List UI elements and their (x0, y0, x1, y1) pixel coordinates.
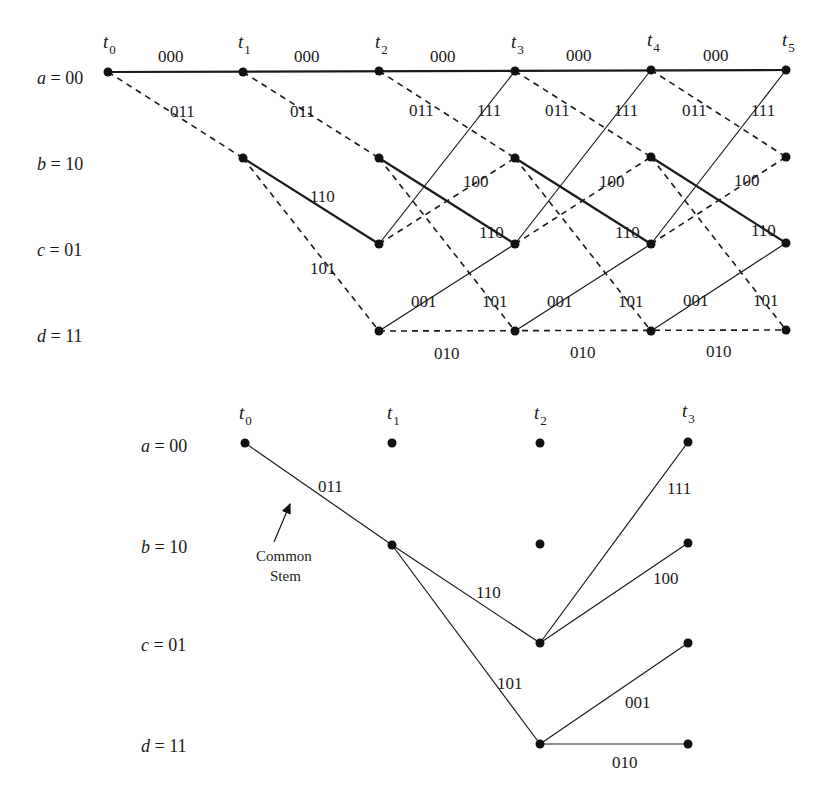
node-c-t3 (684, 639, 693, 648)
branch-label-ab: 011 (290, 102, 315, 121)
time-label-t3: t3 (511, 31, 524, 57)
node-b-t3 (511, 154, 520, 163)
branch-label-ab: 011 (682, 101, 707, 120)
node-d-t2 (536, 740, 545, 749)
branch-label-bd: 101 (482, 292, 508, 311)
arrow-icon (274, 504, 290, 542)
node-b-t2 (536, 540, 545, 549)
node-c-t4 (647, 240, 656, 249)
branch-label-dd: 010 (570, 343, 596, 362)
branch-label-dc: 001 (683, 291, 709, 310)
branch-label-dc: 001 (411, 292, 437, 311)
edge-b-to-d (392, 545, 540, 744)
survivor-time-label-t3: t3 (682, 400, 695, 426)
survivor-edges (245, 442, 688, 744)
edges-a-to-a (108, 70, 786, 72)
common-stem-annotation: Common Stem (256, 504, 312, 584)
node-d-t3 (684, 740, 693, 749)
branch-label-bc: 110 (479, 223, 504, 242)
branch-label-ab: 011 (545, 101, 570, 120)
branch-label-aa: 000 (430, 47, 456, 66)
branch-label-dd: 010 (434, 344, 460, 363)
edges-d-to-c (379, 243, 786, 331)
branch-label-aa: 000 (158, 47, 184, 66)
node-a-t3 (684, 438, 693, 447)
branch-label-ca: 111 (667, 479, 691, 498)
branch-label-cb: 100 (653, 569, 679, 588)
branch-label-bd: 101 (618, 292, 644, 311)
annotation-common: Common (256, 548, 312, 564)
node-a-t5 (782, 66, 791, 75)
branch-label-ca: 111 (751, 101, 775, 120)
branch-label-ab: 011 (409, 101, 434, 120)
state-label-c: c = 01 (37, 240, 82, 260)
node-d-t2 (375, 327, 384, 336)
node-c-t3 (511, 240, 520, 249)
survivor-time-label-t2: t2 (534, 402, 547, 428)
survivor-state-label-b: b = 10 (141, 537, 187, 557)
node-d-t3 (511, 327, 520, 336)
survivor-time-label-t1: t1 (387, 402, 400, 428)
branch-label-ca: 111 (614, 101, 638, 120)
branch-label-bc: 110 (476, 583, 501, 602)
trellis-diagram: t0 t1 t2 t3 t4 t5 a = 00 b = 10 c = 01 d… (37, 29, 795, 363)
branch-label-bc: 110 (615, 223, 640, 242)
node-b-t2 (375, 154, 384, 163)
edges-c-to-a (379, 70, 786, 244)
branch-label-stem: 011 (318, 477, 343, 496)
node-a-t0 (241, 439, 250, 448)
branch-label-dc: 001 (625, 693, 651, 712)
survivor-state-label-a: a = 00 (141, 436, 187, 456)
time-label-t1: t1 (238, 31, 251, 57)
time-label-t4: t4 (647, 29, 660, 55)
node-c-t2 (536, 639, 545, 648)
branch-label-ca: 111 (477, 101, 501, 120)
branch-label-bd: 101 (497, 674, 523, 693)
node-a-t2 (375, 67, 384, 76)
survivor-time-labels: t0 t1 t2 t3 (239, 400, 695, 428)
node-d-t5 (782, 326, 791, 335)
edge-c-to-a (540, 442, 688, 643)
branch-label-aa: 000 (703, 46, 729, 65)
branch-label-cb: 100 (599, 172, 625, 191)
time-label-t2: t2 (375, 31, 388, 57)
survivor-branch-labels: 011 110 101 111 100 001 010 (318, 477, 691, 772)
branch-labels: 000 000 000 000 000 011 011 011 011 011 … (158, 46, 779, 363)
time-label-t0: t0 (103, 31, 116, 57)
node-a-t4 (647, 66, 656, 75)
trellis-figure: t0 t1 t2 t3 t4 t5 a = 00 b = 10 c = 01 d… (0, 0, 827, 803)
branch-label-aa: 000 (566, 46, 592, 65)
state-labels: a = 00 b = 10 c = 01 d = 11 (37, 68, 83, 346)
branch-label-dd: 010 (612, 753, 638, 772)
branch-label-bd: 101 (753, 291, 779, 310)
branch-label-cb: 100 (463, 172, 489, 191)
node-b-t3 (684, 539, 693, 548)
node-b-t5 (782, 153, 791, 162)
survivor-time-label-t0: t0 (239, 402, 252, 428)
branch-label-bc: 110 (310, 187, 335, 206)
edge-b-to-c (392, 545, 540, 643)
node-a-t0 (104, 68, 113, 77)
node-a-t3 (511, 67, 520, 76)
node-c-t5 (782, 239, 791, 248)
edge-c-to-b (540, 543, 688, 643)
node-a-t2 (536, 439, 545, 448)
branch-label-bd: 101 (310, 259, 336, 278)
node-c-t2 (375, 240, 384, 249)
state-label-a: a = 00 (37, 68, 83, 88)
annotation-stem: Stem (270, 568, 301, 584)
node-b-t1 (388, 541, 397, 550)
branch-label-dd: 010 (706, 342, 732, 361)
survivor-state-label-d: d = 11 (141, 736, 186, 756)
branch-label-aa: 000 (294, 47, 320, 66)
survivor-state-label-c: c = 01 (141, 635, 186, 655)
state-label-d: d = 11 (37, 326, 82, 346)
node-a-t1 (388, 439, 397, 448)
node-b-t1 (239, 154, 248, 163)
edges-c-to-b (379, 157, 786, 244)
survivor-state-labels: a = 00 b = 10 c = 01 d = 11 (141, 436, 187, 756)
state-label-b: b = 10 (37, 154, 83, 174)
branch-label-cb: 100 (734, 171, 760, 190)
edge-d-to-c (540, 643, 688, 744)
edges-d-to-d (379, 330, 786, 331)
